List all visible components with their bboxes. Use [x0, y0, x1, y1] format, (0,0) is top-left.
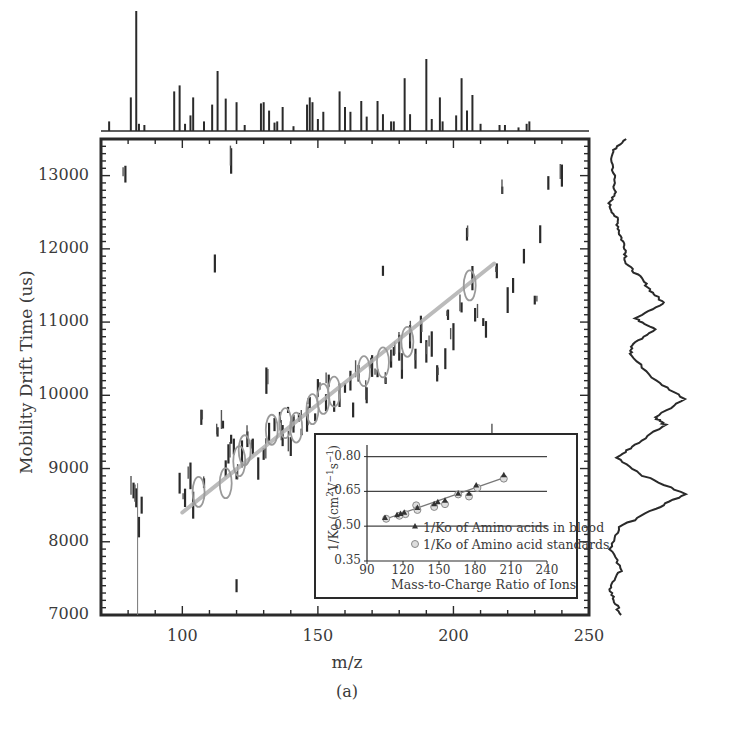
inset-ylabel-mid2: s	[327, 463, 341, 469]
inset-x-tick-label: 90	[359, 563, 374, 577]
top-mass-spectrum	[101, 11, 589, 131]
inset-x-tick-label: 150	[428, 563, 451, 577]
inset-x-tick-label: 180	[464, 563, 487, 577]
inset-x-tick-label: 210	[500, 563, 523, 577]
x-tick-label: 150	[303, 626, 334, 645]
inset-y-tick-label: 0.35	[321, 553, 361, 567]
y-tick-label: 8000	[9, 531, 89, 550]
inset-legend-entry-standards: 1/Ko of Amino acid standards	[423, 537, 609, 552]
figure	[0, 0, 754, 732]
inset-legend-entry-blood: 1/Ko of Amino acids in blood	[423, 520, 604, 535]
inset-ylabel-mid1: V	[327, 482, 341, 491]
y-tick-label: 13000	[9, 165, 89, 184]
panel-label: (a)	[336, 682, 358, 701]
main-y-axis-label: Mobility Drift Time (us)	[16, 270, 36, 474]
inset-ylabel-sup2: −1	[325, 469, 335, 482]
inset-x-tick-label: 240	[536, 563, 559, 577]
inset-ylabel-sup3: −1	[325, 450, 335, 463]
x-tick-label: 250	[574, 626, 605, 645]
x-tick-label: 100	[167, 626, 198, 645]
drift-profile-line	[609, 139, 686, 615]
y-tick-label: 7000	[9, 604, 89, 623]
main-x-axis-label: m/z	[332, 652, 363, 672]
y-tick-label: 12000	[9, 238, 89, 257]
right-drift-profile	[609, 139, 686, 615]
legend-circle-icon	[412, 541, 419, 548]
inset-x-axis-label: Mass-to-Charge Ratio of Ions	[391, 577, 576, 592]
inset-ylabel-sup1: 2	[325, 491, 335, 497]
x-tick-label: 200	[438, 626, 469, 645]
circled-feature	[193, 477, 205, 507]
inset-ylabel-base: 1/Ko (cm	[327, 497, 341, 551]
inset-y-axis-label: 1/Ko (cm2V−1s−1)	[325, 445, 341, 551]
inset-ylabel-end: )	[327, 445, 341, 450]
inset-x-tick-label: 120	[392, 563, 415, 577]
